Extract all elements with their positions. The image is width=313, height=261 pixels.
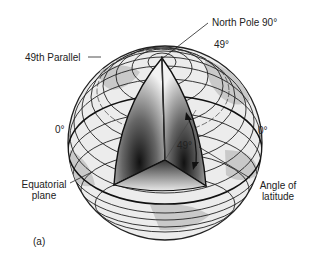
equatorial-plane-line1: Equatorial (18, 179, 70, 190)
equator-zero-left-label: 0° (55, 124, 65, 135)
angle-49-label: 49° (177, 140, 192, 151)
north-pole-label: North Pole 90° (212, 17, 277, 28)
equatorial-plane-label: Equatorial plane (18, 179, 70, 201)
angle-of-latitude-line1: Angle of (252, 180, 304, 191)
equatorial-plane-line2: plane (18, 190, 70, 201)
equator-zero-right-label: 0° (258, 125, 268, 136)
parallel-49-label: 49th Parallel (25, 52, 81, 63)
angle-of-latitude-line2: latitude (252, 191, 304, 202)
latitude-49-top-label: 49° (214, 39, 229, 50)
panel-label: (a) (33, 236, 45, 247)
angle-of-latitude-label: Angle of latitude (252, 180, 304, 202)
